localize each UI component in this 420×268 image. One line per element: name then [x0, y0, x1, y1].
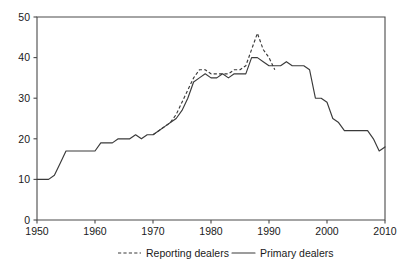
chart-legend: Reporting dealers Primary dealers [118, 247, 334, 259]
y-tick-label: 0 [24, 214, 30, 226]
y-tick-label: 40 [18, 51, 30, 63]
x-tick-label: 2000 [315, 225, 339, 237]
y-tick-label: 10 [18, 173, 30, 185]
series-line-reporting-dealers [153, 33, 275, 135]
x-tick-label: 1970 [141, 225, 165, 237]
legend-label-primary-dealers: Primary dealers [260, 247, 334, 259]
x-tick-label: 1980 [199, 225, 223, 237]
series-line-primary-dealers [37, 58, 385, 180]
x-tick-label: 1950 [25, 225, 49, 237]
y-tick-label: 50 [18, 11, 30, 23]
x-tick-label: 2010 [373, 225, 397, 237]
chart-figure: 01020304050 1950196019701980199020002010… [0, 0, 420, 268]
x-tick-label: 1960 [83, 225, 107, 237]
line-chart: 01020304050 1950196019701980199020002010… [0, 0, 420, 268]
y-tick-label: 20 [18, 133, 30, 145]
y-tick-label: 30 [18, 92, 30, 104]
data-series-group [37, 33, 385, 179]
legend-label-reporting-dealers: Reporting dealers [146, 247, 229, 259]
y-axis-tick-labels: 01020304050 [18, 11, 30, 226]
x-tick-label: 1990 [257, 225, 281, 237]
x-axis-tick-labels: 1950196019701980199020002010 [25, 225, 397, 237]
